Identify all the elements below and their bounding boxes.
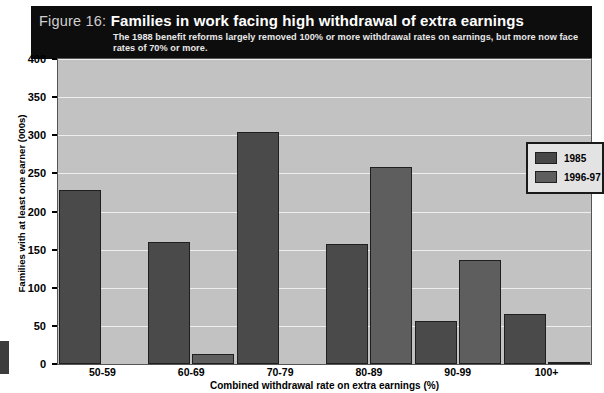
figure-title: Families in work facing high withdrawal …: [111, 12, 524, 29]
gridline: [58, 250, 591, 251]
legend-swatch-icon: [535, 171, 557, 183]
bar-80-89-1985: [326, 244, 368, 364]
y-tick-label: 0: [40, 358, 46, 370]
bar-90-99-1985: [415, 321, 457, 364]
y-tick-label: 350: [28, 91, 46, 103]
chart-legend: 19851996-97: [526, 142, 604, 194]
y-tick-label: 50: [34, 320, 46, 332]
title-line: Figure 16: Families in work facing high …: [39, 12, 524, 30]
legend-swatch-icon: [535, 152, 557, 164]
legend-label: 1996-97: [564, 172, 601, 183]
legend-label: 1985: [564, 153, 586, 164]
bar-60-69-199697: [192, 354, 234, 364]
y-axis-title: Families with at least one earner (000s): [16, 89, 27, 319]
bar-100plus-1985: [504, 314, 546, 364]
plot-frame: 19851996-97: [57, 58, 592, 365]
bar-90-99-199697: [459, 260, 501, 364]
gridline: [58, 212, 591, 213]
gridline: [58, 59, 591, 60]
x-tick-label: 50-59: [89, 366, 116, 378]
y-tick-label: 400: [28, 53, 46, 65]
legend-item-199697: 1996-97: [535, 169, 601, 185]
gridline: [58, 173, 591, 174]
y-tick-label: 250: [28, 167, 46, 179]
y-tick-label: 200: [28, 206, 46, 218]
gridline: [58, 135, 591, 136]
legend-item-1985: 1985: [535, 150, 586, 166]
figure-number-label: Figure 16:: [39, 13, 106, 29]
bar-60-69-1985: [148, 242, 190, 364]
y-tick-label: 300: [28, 129, 46, 141]
title-band: Figure 16: Families in work facing high …: [31, 6, 592, 59]
gridline: [58, 288, 591, 289]
x-tick-label: 90-99: [444, 366, 471, 378]
x-tick-label: 80-89: [355, 366, 382, 378]
x-tick-label: 100+: [535, 366, 559, 378]
figure-subtitle: The 1988 benefit reforms largely removed…: [113, 32, 583, 55]
bar-70-79-1985: [237, 132, 279, 364]
bar-100plus-199697: [548, 362, 590, 364]
gridline: [58, 97, 591, 98]
y-tick-label: 100: [28, 282, 46, 294]
x-axis-title: Combined withdrawal rate on extra earnin…: [57, 380, 592, 391]
x-tick-label: 70-79: [267, 366, 294, 378]
y-tick-label: 150: [28, 244, 46, 256]
bar-80-89-199697: [370, 167, 412, 364]
plot-area: [58, 59, 591, 364]
x-tick-label: 60-69: [178, 366, 205, 378]
bar-50-59-1985: [59, 190, 101, 364]
